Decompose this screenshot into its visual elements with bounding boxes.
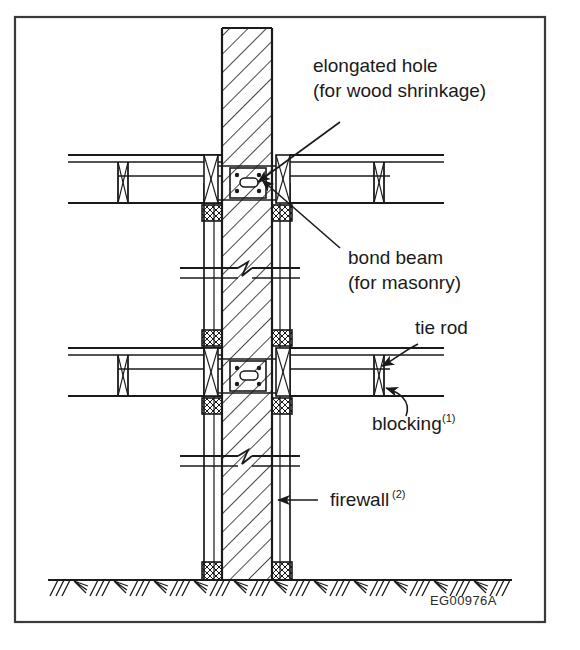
firewall-assembly xyxy=(222,28,272,580)
label-firewall: firewall (2) xyxy=(330,488,405,510)
label-bond-beam-line2: (for masonry) xyxy=(348,272,461,293)
lower-left-bearing-pad-top xyxy=(202,330,222,346)
label-tie-rod-line1: tie rod xyxy=(415,317,468,338)
label-blocking-line1: blocking xyxy=(372,413,442,434)
label-bond-beam: bond beam (for masonry) xyxy=(348,247,461,293)
label-elongated-hole-line1: elongated hole xyxy=(313,55,438,76)
lower-elongated-hole xyxy=(240,371,258,380)
label-elongated-hole: elongated hole (for wood shrinkage) xyxy=(313,55,486,101)
lower-right-bearing-pad-top xyxy=(272,330,292,346)
upper-elongated-hole xyxy=(240,178,258,187)
label-elongated-hole-line2: (for wood shrinkage) xyxy=(313,80,486,101)
lower-right-wall-blocking xyxy=(276,348,290,396)
label-bond-beam-line1: bond beam xyxy=(348,247,443,268)
architectural-detail-drawing: elongated hole (for wood shrinkage) bond… xyxy=(0,0,580,650)
upper-left-bearing-pad xyxy=(202,205,222,221)
label-firewall-superscript: (2) xyxy=(392,488,405,500)
figure-id-code: EG00976A xyxy=(430,593,497,608)
upper-left-wall-blocking xyxy=(204,155,218,203)
label-firewall-line1: firewall xyxy=(330,489,389,510)
figure-page: elongated hole (for wood shrinkage) bond… xyxy=(0,0,580,650)
lower-left-bearing-pad-bottom xyxy=(202,398,222,414)
upper-right-wall-blocking xyxy=(276,155,290,203)
upper-right-blocking xyxy=(374,162,384,203)
upper-left-blocking xyxy=(118,162,128,203)
label-blocking-superscript: (1) xyxy=(442,412,455,424)
leader-blocking xyxy=(386,388,407,416)
lower-right-blocking xyxy=(374,355,384,396)
lower-left-blocking xyxy=(118,355,128,396)
upper-right-bearing-pad xyxy=(272,205,292,221)
firewall-hatch-body xyxy=(222,28,272,580)
label-blocking: blocking (1) xyxy=(372,412,455,434)
lower-left-wall-blocking xyxy=(204,348,218,396)
lower-right-bearing-pad-bottom xyxy=(272,398,292,414)
label-tie-rod: tie rod xyxy=(415,317,468,338)
